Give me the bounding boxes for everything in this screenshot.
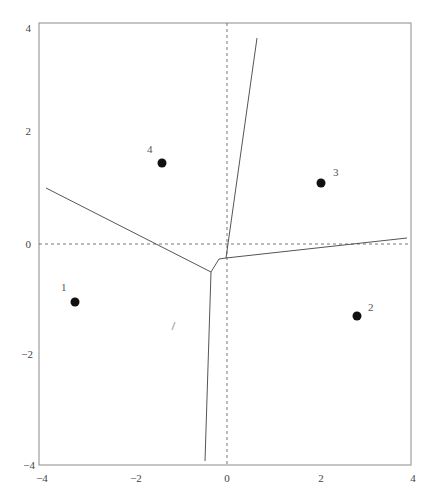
edge-top bbox=[226, 38, 257, 258]
edge-center bbox=[211, 258, 226, 272]
site-points bbox=[71, 159, 362, 321]
point-label-2: 2 bbox=[368, 301, 374, 313]
voronoi-plot: 1 2 3 4 −4 −2 0 2 4 4 2 0 −2 −4 bbox=[0, 0, 434, 503]
point-label-4: 4 bbox=[147, 143, 153, 155]
site-point-2 bbox=[353, 312, 362, 321]
site-point-1 bbox=[71, 298, 80, 307]
edge-right bbox=[226, 238, 407, 258]
voronoi-edges bbox=[46, 38, 407, 461]
site-point-3 bbox=[317, 179, 326, 188]
x-tick-label: 2 bbox=[318, 472, 324, 484]
artifact-mark bbox=[172, 322, 175, 330]
y-tick-label: −4 bbox=[23, 459, 35, 471]
edge-bottom bbox=[205, 272, 211, 461]
point-label-3: 3 bbox=[333, 166, 339, 178]
site-point-4 bbox=[158, 159, 167, 168]
y-tick-label: −2 bbox=[21, 348, 33, 360]
y-tick-label: 4 bbox=[26, 22, 32, 34]
x-tick-label: −2 bbox=[130, 472, 142, 484]
x-tick-label: −4 bbox=[36, 472, 48, 484]
edge-left bbox=[46, 188, 211, 272]
x-tick-label: 0 bbox=[224, 472, 230, 484]
y-tick-label: 0 bbox=[26, 238, 32, 250]
y-tick-label: 2 bbox=[26, 125, 32, 137]
point-label-1: 1 bbox=[61, 281, 67, 293]
x-tick-label: 4 bbox=[410, 472, 416, 484]
